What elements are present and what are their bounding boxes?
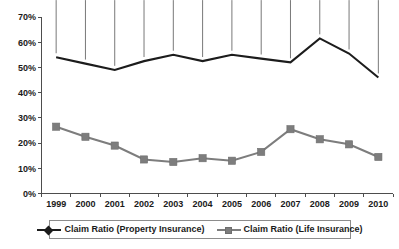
y-axis-tick-label: 20% [18, 138, 36, 148]
legend-entry-property-insurance: Claim Ratio (Property Insurance) [37, 225, 204, 235]
x-axis-tick-label: 2008 [310, 199, 330, 209]
x-axis-tick-label: 2003 [163, 199, 183, 209]
data-point-marker [287, 126, 294, 133]
y-axis-tick-label: 50% [18, 63, 36, 73]
data-point-marker [82, 133, 89, 140]
series-markers-property-insurance [56, 0, 378, 73]
data-point-marker [140, 156, 147, 163]
x-axis-tick-label-group: 1999200020012002200320042005200620072008… [46, 199, 388, 209]
x-axis-tick-label: 2005 [222, 199, 242, 209]
x-axis-tick-label: 1999 [46, 199, 66, 209]
data-point-marker [258, 148, 265, 155]
y-axis-tick-label: 40% [18, 88, 36, 98]
data-point-marker [316, 136, 323, 143]
x-axis-tick-mark-group [42, 194, 394, 198]
data-point-marker [345, 141, 352, 148]
x-axis-tick-label: 2004 [193, 199, 213, 209]
y-axis-tick-label-group: 0%10%20%30%40%50%60%70% [18, 12, 36, 199]
data-point-marker [111, 142, 118, 149]
x-axis-tick-label: 2002 [134, 199, 154, 209]
legend-swatch-life-insurance [217, 225, 241, 235]
legend-entry-life-insurance: Claim Ratio (Life Insurance) [217, 225, 363, 235]
y-axis-tick-label: 0% [23, 189, 36, 199]
y-axis-tick-label: 60% [18, 38, 36, 48]
diamond-marker-icon [44, 225, 54, 235]
data-point-marker [170, 158, 177, 165]
legend-label-life-insurance: Claim Ratio (Life Insurance) [244, 225, 363, 234]
x-axis-tick-label: 2006 [251, 199, 271, 209]
x-axis-tick-label: 2007 [280, 199, 300, 209]
chart-legend: Claim Ratio (Property Insurance) Claim R… [49, 220, 351, 239]
square-marker-icon [225, 227, 232, 234]
data-point-marker [53, 123, 60, 130]
data-point-marker [228, 157, 235, 164]
chart-plot-area: 0%10%20%30%40%50%60%70% 1999200020012002… [0, 0, 399, 249]
x-axis-tick-label: 2001 [105, 199, 125, 209]
series-line-property-insurance [56, 38, 378, 77]
data-point-marker [199, 155, 206, 162]
y-axis-tick-label: 30% [18, 113, 36, 123]
data-point-marker [375, 153, 382, 160]
claim-ratio-line-chart: 0%10%20%30%40%50%60%70% 1999200020012002… [0, 0, 399, 249]
series-line-life-insurance [56, 127, 378, 162]
x-axis-tick-label: 2010 [368, 199, 388, 209]
y-axis-tick-label: 10% [18, 164, 36, 174]
x-axis-tick-label: 2009 [339, 199, 359, 209]
y-axis-tick-mark-group [38, 17, 42, 194]
legend-label-property-insurance: Claim Ratio (Property Insurance) [64, 225, 204, 234]
x-axis-tick-label: 2000 [75, 199, 95, 209]
y-axis-tick-label: 70% [18, 12, 36, 22]
legend-swatch-property-insurance [37, 225, 61, 235]
